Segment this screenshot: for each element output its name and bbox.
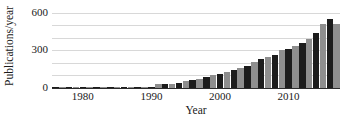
bar	[313, 33, 320, 88]
bar	[203, 77, 210, 88]
bar	[217, 74, 224, 88]
x-axis-title: Year	[52, 104, 340, 116]
bar	[327, 19, 334, 88]
x-axis-tick-label: 2010	[278, 91, 300, 102]
publications-per-year-chart: Publications/year 0300600 19801990200020…	[0, 0, 345, 126]
bar	[251, 62, 258, 88]
bar	[285, 49, 292, 88]
y-axis-tick-label: 0	[22, 82, 48, 93]
bar	[265, 57, 272, 88]
bar	[258, 59, 265, 88]
x-axis-tick-label: 1990	[140, 91, 162, 102]
bar	[320, 24, 327, 88]
bar	[292, 46, 299, 88]
y-axis-tick-label: 600	[22, 7, 48, 18]
x-axis-tick-label: 1980	[72, 91, 94, 102]
bar	[333, 24, 340, 88]
x-axis-tick-labels: 1980199020002010	[52, 89, 340, 105]
bar	[244, 66, 251, 88]
y-axis-tick-labels: 0300600	[18, 0, 48, 126]
bar	[231, 70, 238, 88]
y-axis-title: Publications/year	[0, 0, 18, 92]
bar	[299, 43, 306, 88]
bar-series	[52, 10, 340, 88]
bar	[279, 50, 286, 88]
y-axis-title-text: Publications/year	[3, 6, 15, 86]
bar	[224, 72, 231, 88]
bar	[210, 75, 217, 88]
bar	[306, 39, 313, 88]
y-axis-tick-label: 300	[22, 44, 48, 55]
bar	[237, 68, 244, 88]
bar	[272, 55, 279, 88]
plot-area	[52, 10, 340, 88]
x-axis-tick-label: 2000	[209, 91, 231, 102]
